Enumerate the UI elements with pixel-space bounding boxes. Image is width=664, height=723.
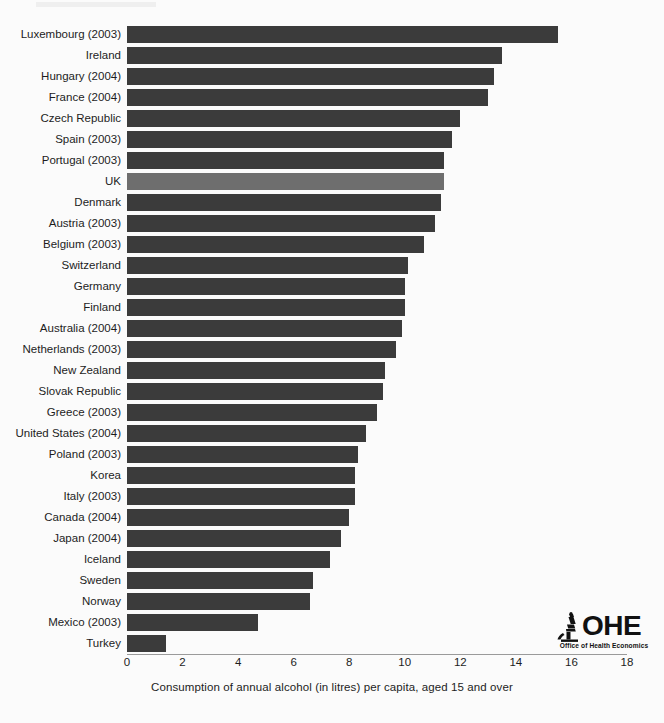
x-tick-label: 8	[346, 656, 352, 668]
alcohol-consumption-bar-chart: Luxembourg (2003)IrelandHungary (2004)Fr…	[0, 0, 664, 723]
bar-mexico-2003	[127, 614, 258, 631]
bar-korea	[127, 467, 355, 484]
category-label: Netherlands (2003)	[1, 339, 121, 360]
bar-row	[127, 297, 627, 318]
bar-portugal-2003	[127, 152, 444, 169]
bar-row	[127, 507, 627, 528]
plot-area	[127, 24, 627, 654]
bar-row	[127, 549, 627, 570]
bar-norway	[127, 593, 310, 610]
bar-slovak-republic	[127, 383, 383, 400]
category-label: New Zealand	[1, 360, 121, 381]
category-label: Luxembourg (2003)	[1, 24, 121, 45]
category-label: Japan (2004)	[1, 528, 121, 549]
bar-poland-2003	[127, 446, 358, 463]
bar-new-zealand	[127, 362, 385, 379]
bar-greece-2003	[127, 404, 377, 421]
category-label: Canada (2004)	[1, 507, 121, 528]
bar-row	[127, 381, 627, 402]
bar-row	[127, 150, 627, 171]
ohe-wordmark: OHE	[582, 610, 641, 641]
bar-row	[127, 45, 627, 66]
category-label: Austria (2003)	[1, 213, 121, 234]
bar-row	[127, 528, 627, 549]
bar-japan-2004	[127, 530, 341, 547]
bar-row	[127, 213, 627, 234]
category-label: Sweden	[1, 570, 121, 591]
category-label: Italy (2003)	[1, 486, 121, 507]
category-label: Finland	[1, 297, 121, 318]
category-label: Denmark	[1, 192, 121, 213]
x-tick-label: 16	[565, 656, 578, 668]
bar-row	[127, 318, 627, 339]
category-label: Turkey	[1, 633, 121, 654]
category-axis-labels: Luxembourg (2003)IrelandHungary (2004)Fr…	[0, 24, 121, 654]
bar-ireland	[127, 47, 502, 64]
bar-row	[127, 444, 627, 465]
bar-germany	[127, 278, 405, 295]
x-tick-label: 18	[621, 656, 634, 668]
bar-netherlands-2003	[127, 341, 396, 358]
bar-spain-2003	[127, 131, 452, 148]
ohe-subtitle: Office of Health Economics	[552, 642, 656, 649]
x-tick-label: 4	[235, 656, 241, 668]
ohe-logo: OHE Office of Health Economics	[552, 612, 656, 654]
category-label: Greece (2003)	[1, 402, 121, 423]
category-label: Spain (2003)	[1, 129, 121, 150]
bar-row	[127, 465, 627, 486]
bar-czech-republic	[127, 110, 460, 127]
bar-row	[127, 171, 627, 192]
x-tick-label: 6	[290, 656, 296, 668]
category-label: France (2004)	[1, 87, 121, 108]
category-label: UK	[1, 171, 121, 192]
x-tick-label: 14	[509, 656, 522, 668]
category-label: Belgium (2003)	[1, 234, 121, 255]
scan-artifact	[36, 2, 156, 7]
bar-denmark	[127, 194, 441, 211]
bar-row	[127, 276, 627, 297]
bar-row	[127, 66, 627, 87]
category-label: Korea	[1, 465, 121, 486]
bar-row	[127, 234, 627, 255]
bar-row	[127, 87, 627, 108]
bar-luxembourg-2003	[127, 26, 558, 43]
category-label: Australia (2004)	[1, 318, 121, 339]
x-tick-label: 12	[454, 656, 467, 668]
bar-turkey	[127, 635, 166, 652]
bar-hungary-2004	[127, 68, 494, 85]
bar-rows	[127, 24, 627, 654]
category-label: Ireland	[1, 45, 121, 66]
bar-iceland	[127, 551, 330, 568]
bar-row	[127, 24, 627, 45]
bar-row	[127, 423, 627, 444]
bar-row	[127, 129, 627, 150]
category-label: Poland (2003)	[1, 444, 121, 465]
category-label: Mexico (2003)	[1, 612, 121, 633]
x-tick-label: 10	[398, 656, 411, 668]
category-label: Norway	[1, 591, 121, 612]
bar-austria-2003	[127, 215, 435, 232]
category-label: United States (2004)	[1, 423, 121, 444]
bar-sweden	[127, 572, 313, 589]
category-label: Iceland	[1, 549, 121, 570]
bar-row	[127, 486, 627, 507]
category-label: Slovak Republic	[1, 381, 121, 402]
bar-uk	[127, 173, 444, 190]
bar-row	[127, 108, 627, 129]
bar-switzerland	[127, 257, 408, 274]
category-label: Czech Republic	[1, 108, 121, 129]
category-label: Switzerland	[1, 255, 121, 276]
bar-row	[127, 402, 627, 423]
bar-row	[127, 591, 627, 612]
bar-row	[127, 570, 627, 591]
bar-canada-2004	[127, 509, 349, 526]
bar-finland	[127, 299, 405, 316]
x-axis-tick-labels: 024681012141618	[127, 656, 627, 676]
category-label: Germany	[1, 276, 121, 297]
x-tick-label: 2	[179, 656, 185, 668]
bar-united-states-2004	[127, 425, 366, 442]
bar-row	[127, 360, 627, 381]
x-axis-title: Consumption of annual alcohol (in litres…	[0, 681, 664, 693]
bar-row	[127, 339, 627, 360]
bar-row	[127, 192, 627, 213]
